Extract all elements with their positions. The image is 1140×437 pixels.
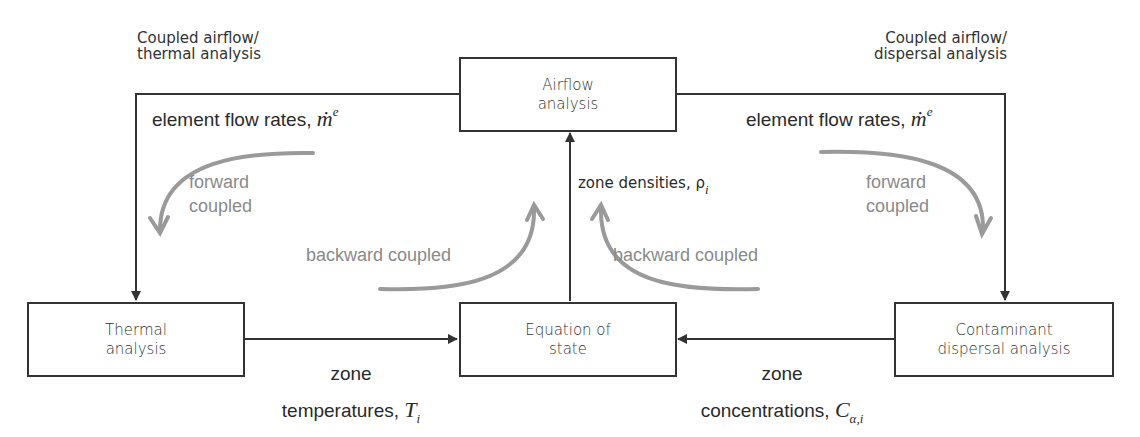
concentrations-line1: zone <box>670 356 894 392</box>
contaminant-box-line1: Contaminant <box>937 321 1070 340</box>
subscript-i: i <box>417 411 421 426</box>
temperatures-line2: temperatures, Ti <box>246 392 456 437</box>
backward-coupled-label-right: backward coupled <box>613 243 758 267</box>
forward-coupled-label-right: forward coupled <box>866 170 929 218</box>
zone-densities-label: zone densities, ρi <box>578 174 709 198</box>
concentrations-text: concentrations, <box>701 400 835 421</box>
caption-airflow-dispersal: Coupled airflow/ dispersal analysis <box>827 30 1007 62</box>
contaminant-box-line2: dispersal analysis <box>937 340 1070 359</box>
m-dot-symbol: ṁ <box>317 106 333 131</box>
equation-box-line2: state <box>525 340 611 359</box>
superscript-e: e <box>927 104 933 119</box>
forward-coupled-label-left: forward coupled <box>189 170 252 218</box>
subscript-alpha-i: α,i <box>850 411 864 426</box>
caption-right-line1: Coupled airflow/ <box>827 30 1007 46</box>
rho-symbol: ρ <box>695 174 705 192</box>
caption-airflow-thermal: Coupled airflow/ thermal analysis <box>137 30 261 62</box>
m-dot-symbol: ṁ <box>911 106 927 131</box>
C-symbol: C <box>835 397 850 422</box>
thermal-analysis-box: Thermal analysis <box>27 302 245 377</box>
caption-left-line1: Coupled airflow/ <box>137 30 261 46</box>
backward-right-text: backward coupled <box>613 243 758 267</box>
T-symbol: T <box>404 397 416 422</box>
caption-right-line2: dispersal analysis <box>827 46 1007 62</box>
zone-concentrations-label: zone concentrations, Cα,i <box>670 356 894 437</box>
temperatures-text: temperatures, <box>282 400 405 421</box>
element-flow-rates-left: element flow rates, ṁe <box>152 104 338 132</box>
concentrations-line2: concentrations, Cα,i <box>670 392 894 437</box>
thermal-box-line1: Thermal <box>105 321 167 340</box>
airflow-box-line1: Airflow <box>538 76 599 95</box>
backward-left-text: backward coupled <box>306 243 451 267</box>
caption-left-line2: thermal analysis <box>137 46 261 62</box>
forward-right-line2: coupled <box>866 194 929 218</box>
airflow-box-line2: analysis <box>538 95 599 114</box>
superscript-e: e <box>333 104 339 119</box>
flow-label-text: element flow rates, <box>152 109 317 130</box>
zone-temperatures-label: zone temperatures, Ti <box>246 356 456 437</box>
thermal-box-line2: analysis <box>105 340 167 359</box>
backward-coupled-label-left: backward coupled <box>306 243 451 267</box>
temperatures-line1: zone <box>246 356 456 392</box>
densities-text: zone densities, <box>578 174 695 192</box>
equation-of-state-box: Equation of state <box>459 302 677 377</box>
equation-box-line1: Equation of <box>525 321 611 340</box>
subscript-i: i <box>705 182 709 197</box>
contaminant-dispersal-box: Contaminant dispersal analysis <box>894 302 1114 377</box>
flow-label-text: element flow rates, <box>746 109 911 130</box>
forward-right-line1: forward <box>866 170 929 194</box>
element-flow-rates-right: element flow rates, ṁe <box>746 104 932 132</box>
airflow-analysis-box: Airflow analysis <box>459 57 677 132</box>
forward-left-line2: coupled <box>189 194 252 218</box>
forward-left-line1: forward <box>189 170 252 194</box>
